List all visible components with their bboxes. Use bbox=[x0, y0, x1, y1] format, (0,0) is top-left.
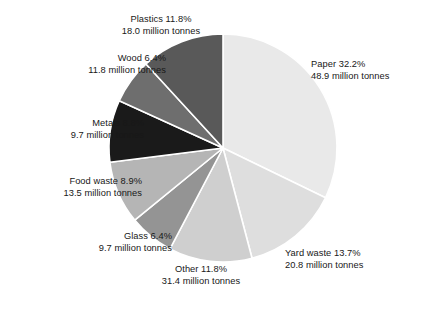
pie-label-plastics-line2: 18.0 million tonnes bbox=[104, 26, 218, 38]
pie-label-wood-line2: 11.8 million tonnes bbox=[52, 65, 166, 77]
pie-label-food-waste-line1: Food waste 8.9% bbox=[18, 176, 142, 188]
pie-label-other: Other 11.8% 31.4 million tonnes bbox=[139, 264, 263, 287]
pie-label-metals-line1: Metals 8.8% bbox=[30, 118, 144, 130]
pie-label-yard-waste-line1: Yard waste 13.7% bbox=[285, 248, 415, 260]
pie-label-paper: Paper 32.2% 48.9 million tonnes bbox=[311, 59, 421, 82]
pie-chart: Paper 32.2% 48.9 million tonnes Yard was… bbox=[0, 0, 423, 313]
pie-label-metals-line2: 9.7 million tonnes bbox=[30, 130, 144, 142]
pie-label-glass-line1: Glass 6.4% bbox=[58, 231, 172, 243]
pie-label-paper-line2: 48.9 million tonnes bbox=[311, 71, 421, 83]
pie-label-wood-line1: Wood 6.4% bbox=[52, 53, 166, 65]
pie-label-glass: Glass 6.4% 9.7 million tonnes bbox=[58, 231, 172, 254]
pie-label-other-line2: 31.4 million tonnes bbox=[139, 276, 263, 288]
pie-label-yard-waste: Yard waste 13.7% 20.8 million tonnes bbox=[285, 248, 415, 271]
pie-label-paper-line1: Paper 32.2% bbox=[311, 59, 421, 71]
pie-label-wood: Wood 6.4% 11.8 million tonnes bbox=[52, 53, 166, 76]
pie-label-glass-line2: 9.7 million tonnes bbox=[58, 243, 172, 255]
pie-label-plastics: Plastics 11.8% 18.0 million tonnes bbox=[104, 14, 218, 37]
pie-label-other-line1: Other 11.8% bbox=[139, 264, 263, 276]
pie-label-food-waste: Food waste 8.9% 13.5 million tonnes bbox=[18, 176, 142, 199]
pie-label-yard-waste-line2: 20.8 million tonnes bbox=[285, 260, 415, 272]
pie-label-plastics-line1: Plastics 11.8% bbox=[104, 14, 218, 26]
pie-label-food-waste-line2: 13.5 million tonnes bbox=[18, 188, 142, 200]
pie-label-metals: Metals 8.8% 9.7 million tonnes bbox=[30, 118, 144, 141]
